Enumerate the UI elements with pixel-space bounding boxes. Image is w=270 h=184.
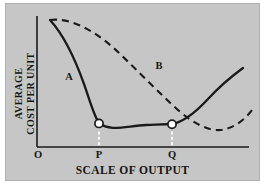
curve-label-b: B (152, 60, 166, 71)
drop-lines (99, 126, 172, 147)
y-axis-title-line-2: COST PER UNIT (24, 39, 36, 149)
curve-label-a: A (62, 71, 76, 82)
figure-container: A B O P Q SCALE OF OUTPUT AVERAGE COST P… (0, 0, 270, 184)
x-tick-label-origin: O (29, 149, 47, 160)
y-axis-title: AVERAGE COST PER UNIT (13, 39, 36, 149)
chart-plot-area: A B O P Q SCALE OF OUTPUT AVERAGE COST P… (6, 4, 259, 180)
x-tick-label-p: P (90, 149, 108, 160)
x-axis-title: SCALE OF OUTPUT (6, 164, 259, 176)
y-axis-title-line-1: AVERAGE (13, 39, 25, 149)
marker-point-p (95, 119, 103, 127)
marker-point-q (168, 120, 176, 128)
curve-a-path (50, 20, 243, 128)
x-tick-label-q: Q (163, 149, 181, 160)
